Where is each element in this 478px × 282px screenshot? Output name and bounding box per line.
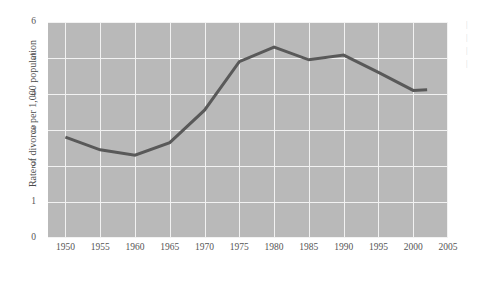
y-axis-tick-label: 3: [0, 125, 42, 135]
divorce-rate-line: [65, 47, 427, 155]
y-axis-tick-label: 6: [0, 17, 42, 27]
margin-note-fragment: ||||: [466, 18, 478, 70]
y-axis-tick-label: 2: [0, 161, 42, 171]
y-axis-tick-label: 0: [0, 233, 42, 243]
y-axis-tick-label: 4: [0, 89, 42, 99]
chart-figure: Rate of divorce per 1,000 population 012…: [0, 0, 478, 282]
margin-note-line: |: [466, 18, 478, 31]
plot-area: [48, 22, 448, 238]
margin-note-line: |: [466, 44, 478, 57]
y-axis-title: Rate of divorce per 1,000 population: [27, 4, 38, 224]
margin-note-line: |: [466, 31, 478, 44]
y-axis-tick-label: 5: [0, 53, 42, 63]
x-axis-tick-label: 2005: [428, 243, 468, 253]
line-series: [48, 22, 448, 238]
y-axis-tick-label: 1: [0, 197, 42, 207]
margin-note-line: |: [466, 57, 478, 70]
